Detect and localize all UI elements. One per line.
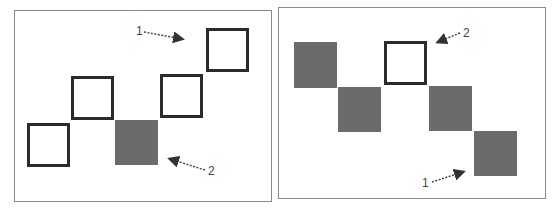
right-label-2: 2 <box>463 26 470 40</box>
right-square-3 <box>384 41 427 85</box>
left-square-5 <box>206 28 249 72</box>
left-label-1: 1 <box>136 24 143 38</box>
right-square-4-filled <box>429 86 472 131</box>
left-label-2: 2 <box>208 164 215 178</box>
right-square-2-filled <box>338 87 381 132</box>
right-square-5-filled <box>474 131 517 176</box>
left-square-1 <box>27 123 70 167</box>
right-square-1-filled <box>294 42 337 88</box>
left-square-4 <box>160 74 203 118</box>
left-square-3-filled <box>115 120 158 165</box>
right-label-1: 1 <box>422 176 429 190</box>
left-square-2 <box>71 76 114 120</box>
